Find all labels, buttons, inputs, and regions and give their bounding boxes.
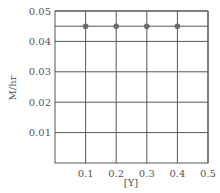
- y-tick-label: 0.02: [29, 97, 51, 108]
- y-axis-label: M/hr: [7, 75, 18, 100]
- x-tick-label: 0.1: [78, 168, 94, 179]
- data-point: [113, 23, 119, 29]
- x-axis-label: [Y]: [124, 177, 139, 188]
- y-tick-label: 0.03: [29, 66, 51, 77]
- grid-lines: [55, 11, 208, 163]
- plot-frame: [55, 11, 208, 163]
- x-tick-label: 0.2: [108, 168, 124, 179]
- y-tick-label: 0.01: [29, 127, 51, 138]
- data-point: [175, 23, 181, 29]
- data-point: [83, 23, 89, 29]
- y-tick-label: 0.05: [29, 6, 51, 17]
- plot-area: [55, 11, 208, 163]
- x-tick-label: 0.4: [169, 168, 185, 179]
- y-tick-label: 0.04: [29, 36, 51, 47]
- data-point: [144, 23, 150, 29]
- y-axis-ticks: 0.010.020.030.040.05: [29, 6, 51, 139]
- x-tick-label: 0.5: [200, 168, 216, 179]
- x-tick-label: 0.3: [139, 168, 155, 179]
- x-axis-ticks: 0.10.20.30.40.5: [78, 168, 216, 179]
- chart: 0.010.020.030.040.05 0.10.20.30.40.5 [Y]…: [0, 0, 220, 193]
